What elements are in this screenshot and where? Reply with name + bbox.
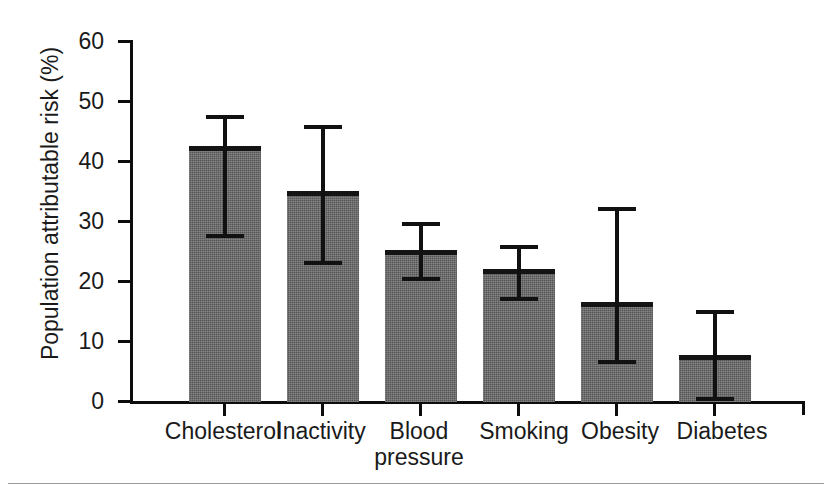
y-axis-line <box>130 40 133 403</box>
x-tick-mark-smoking <box>517 403 520 416</box>
y-tick-mark-10 <box>118 340 130 343</box>
y-tick-label-40: 40 <box>58 150 104 173</box>
x-tick-mark-blood-pressure <box>419 403 422 416</box>
x-label-inactivity: Inactivity <box>256 418 386 444</box>
error-cap-upper-inactivity <box>304 125 342 129</box>
error-cap-upper-diabetes <box>696 310 734 314</box>
error-stem-blood-pressure <box>419 223 423 280</box>
x-tick-mark-inactivity <box>321 403 324 416</box>
y-tick-label-50: 50 <box>58 90 104 113</box>
x-tick-mark-cholesterol <box>223 403 226 416</box>
plot-area: 60 50 40 30 20 10 0 <box>0 0 832 496</box>
error-cap-lower-blood-pressure <box>402 277 440 281</box>
error-cap-upper-blood-pressure <box>402 222 440 226</box>
error-cap-upper-smoking <box>500 245 538 249</box>
x-axis-end-tick <box>802 401 805 415</box>
error-stem-cholesterol <box>223 116 227 236</box>
error-cap-lower-smoking <box>500 297 538 301</box>
error-cap-lower-diabetes <box>696 397 734 401</box>
y-tick-label-60: 60 <box>58 30 104 53</box>
x-tick-mark-diabetes <box>713 403 716 416</box>
bottom-divider <box>8 483 824 484</box>
error-cap-lower-obesity <box>598 360 636 364</box>
error-stem-smoking <box>517 246 521 300</box>
x-label-obesity: Obesity <box>570 418 670 444</box>
x-tick-mark-obesity <box>615 403 618 416</box>
x-label-blood-pressure: Blood pressure <box>369 418 469 470</box>
error-stem-obesity <box>615 208 619 363</box>
y-tick-mark-60 <box>118 40 130 43</box>
error-cap-upper-cholesterol <box>206 115 244 119</box>
y-tick-mark-0 <box>118 400 130 403</box>
y-tick-label-30: 30 <box>58 210 104 233</box>
error-stem-inactivity <box>321 126 325 263</box>
y-tick-label-10: 10 <box>58 330 104 353</box>
y-tick-mark-50 <box>118 100 130 103</box>
y-tick-label-0: 0 <box>58 390 104 413</box>
error-cap-upper-obesity <box>598 207 636 211</box>
chart-figure: Population attributable risk (%) 60 50 4… <box>0 0 832 496</box>
x-label-smoking: Smoking <box>464 418 584 444</box>
y-tick-mark-40 <box>118 160 130 163</box>
y-tick-mark-20 <box>118 280 130 283</box>
y-tick-label-20: 20 <box>58 270 104 293</box>
y-tick-mark-30 <box>118 220 130 223</box>
error-stem-diabetes <box>713 311 717 400</box>
x-label-diabetes: Diabetes <box>662 418 782 444</box>
error-cap-lower-cholesterol <box>206 234 244 238</box>
error-cap-lower-inactivity <box>304 261 342 265</box>
